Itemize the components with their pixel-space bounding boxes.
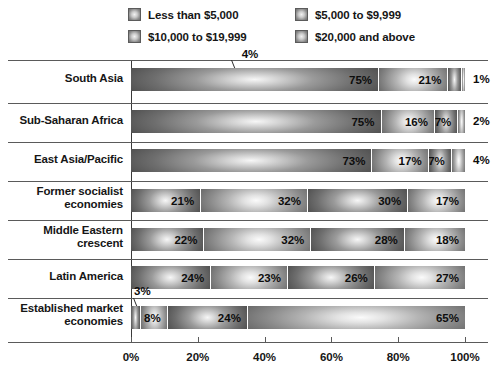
- bar-segment[interactable]: 22%: [131, 228, 204, 251]
- segment-callout-label: 3%: [134, 285, 151, 297]
- segment-value-label: 65%: [436, 312, 465, 324]
- segment-value-label: 28%: [375, 234, 404, 246]
- chart-row: Former socialisteconomies21%32%30%17%: [0, 181, 496, 223]
- segment-value-label: 24%: [181, 272, 210, 284]
- segment-value-label: 32%: [278, 195, 307, 207]
- bar-segment[interactable]: 27%: [375, 266, 465, 289]
- x-tick: [465, 337, 466, 342]
- stacked-bar[interactable]: 22%32%28%18%: [131, 228, 465, 251]
- segment-value-label: 7%: [435, 116, 457, 128]
- chart-row: Established marketeconomies3%8%24%65%: [0, 298, 496, 340]
- segment-value-label: 22%: [174, 234, 203, 246]
- segment-outside-label: 4%: [473, 154, 490, 166]
- bar-segment[interactable]: [452, 149, 465, 172]
- segment-value-label: 18%: [436, 234, 465, 246]
- row-label-line: Sub-Saharan Africa: [8, 114, 123, 127]
- row-label-line: Latin America: [8, 270, 123, 283]
- x-axis: 0%20%40%60%80%100%: [0, 342, 496, 375]
- bar-segment[interactable]: 7%: [429, 149, 452, 172]
- bar-segment[interactable]: 16%: [382, 110, 435, 133]
- segment-value-label: 30%: [378, 195, 407, 207]
- bar-segment[interactable]: 75%: [131, 68, 379, 91]
- row-label-line: economies: [8, 315, 123, 328]
- bar-segment[interactable]: [462, 68, 465, 91]
- segment-value-label: 21%: [171, 195, 200, 207]
- segment-outside-label: 1%: [473, 73, 490, 85]
- row-label: East Asia/Pacific: [8, 153, 123, 166]
- x-tick-label: 60%: [320, 351, 343, 363]
- x-tick: [131, 337, 132, 342]
- x-tick-label: 100%: [450, 351, 479, 363]
- chart-row: Sub-Saharan Africa2%75%16%7%: [0, 103, 496, 145]
- bar-segment[interactable]: 75%: [131, 110, 382, 133]
- segment-value-label: 32%: [281, 234, 310, 246]
- x-tick: [265, 337, 266, 342]
- segment-outside-label: 2%: [473, 115, 490, 127]
- bar-segment[interactable]: 65%: [248, 306, 465, 329]
- bar-segment[interactable]: [131, 306, 141, 329]
- bar-segment[interactable]: 30%: [308, 189, 408, 212]
- bar-segment[interactable]: 24%: [168, 306, 248, 329]
- bar-segment[interactable]: 21%: [131, 189, 201, 212]
- segment-value-label: 16%: [405, 116, 434, 128]
- row-label: Former socialisteconomies: [8, 185, 123, 211]
- segment-value-label: 8%: [144, 312, 167, 324]
- row-label-line: South Asia: [8, 72, 123, 85]
- chart-row: East Asia/Pacific4%73%17%7%: [0, 142, 496, 184]
- segment-value-label: 75%: [351, 116, 380, 128]
- row-label-line: economies: [8, 198, 123, 211]
- bar-segment[interactable]: 32%: [204, 228, 311, 251]
- chart-row: South Asia4%1%75%21%: [0, 61, 496, 103]
- bar-segment[interactable]: 32%: [201, 189, 308, 212]
- segment-value-label: 17%: [436, 195, 465, 207]
- row-label: Established marketeconomies: [8, 302, 123, 328]
- bar-segment[interactable]: 7%: [435, 110, 458, 133]
- bar-segment[interactable]: 73%: [131, 149, 372, 172]
- row-label-line: crescent: [8, 237, 123, 250]
- row-label-line: Former socialist: [8, 185, 123, 198]
- x-tick: [331, 337, 332, 342]
- stacked-bar[interactable]: 8%24%65%: [131, 306, 465, 329]
- segment-value-label: 7%: [429, 155, 451, 167]
- chart-row: Latin America24%23%26%27%: [0, 259, 496, 301]
- segment-value-label: 26%: [345, 272, 374, 284]
- segment-value-label: 23%: [258, 272, 287, 284]
- x-tick-label: 20%: [186, 351, 209, 363]
- bar-segment[interactable]: 26%: [288, 266, 375, 289]
- row-label-line: East Asia/Pacific: [8, 153, 123, 166]
- bar-segment[interactable]: 17%: [372, 149, 428, 172]
- x-tick-label: 0%: [123, 351, 140, 363]
- stacked-bar[interactable]: 75%21%: [131, 68, 465, 91]
- bar-segment[interactable]: 18%: [405, 228, 465, 251]
- stacked-bar[interactable]: 73%17%7%: [131, 149, 465, 172]
- row-label-line: Established market: [8, 302, 123, 315]
- bar-segment[interactable]: 28%: [311, 228, 405, 251]
- segment-value-label: 75%: [349, 74, 378, 86]
- segment-value-label: 24%: [218, 312, 247, 324]
- segment-value-label: 73%: [342, 155, 371, 167]
- stacked-bar-chart: South Asia4%1%75%21%Sub-Saharan Africa2%…: [0, 0, 496, 375]
- bar-segment[interactable]: [448, 68, 461, 91]
- x-tick-label: 80%: [387, 351, 410, 363]
- segment-value-label: 17%: [399, 155, 428, 167]
- segment-callout-label: 4%: [242, 48, 259, 60]
- row-label-line: Middle Eastern: [8, 224, 123, 237]
- stacked-bar[interactable]: 75%16%7%: [131, 110, 465, 133]
- row-label: South Asia: [8, 72, 123, 85]
- stacked-bar[interactable]: 21%32%30%17%: [131, 189, 465, 212]
- x-axis-baseline: [8, 342, 488, 343]
- segment-value-label: 27%: [436, 272, 465, 284]
- x-tick: [198, 337, 199, 342]
- stacked-bar[interactable]: 24%23%26%27%: [131, 266, 465, 289]
- x-tick: [398, 337, 399, 342]
- row-label: Latin America: [8, 270, 123, 283]
- bar-segment[interactable]: 8%: [141, 306, 168, 329]
- bar-segment[interactable]: 23%: [211, 266, 288, 289]
- chart-row: Middle Easterncrescent22%32%28%18%: [0, 220, 496, 262]
- segment-value-label: 21%: [418, 74, 447, 86]
- row-label: Middle Easterncrescent: [8, 224, 123, 250]
- bar-segment[interactable]: 21%: [379, 68, 448, 91]
- bar-segment[interactable]: [458, 110, 465, 133]
- bar-segment[interactable]: 17%: [408, 189, 465, 212]
- row-label: Sub-Saharan Africa: [8, 114, 123, 127]
